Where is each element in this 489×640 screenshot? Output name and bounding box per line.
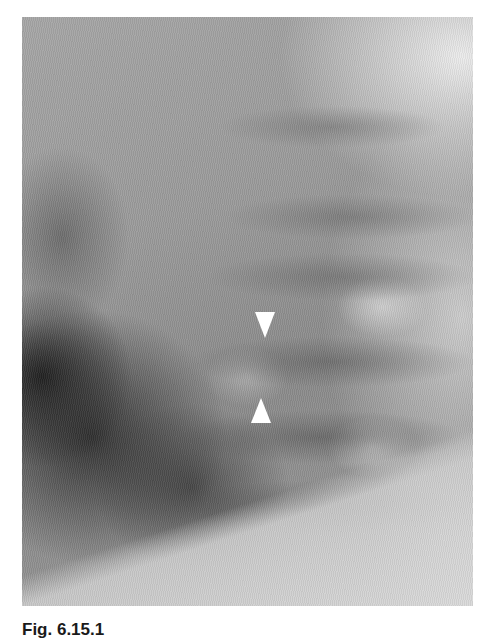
arrowhead-down-icon: [255, 312, 275, 338]
film-grain: [22, 17, 473, 606]
radiograph-image: [22, 17, 473, 606]
figure-caption: Fig. 6.15.1: [22, 620, 104, 640]
arrowhead-up-icon: [251, 398, 271, 423]
